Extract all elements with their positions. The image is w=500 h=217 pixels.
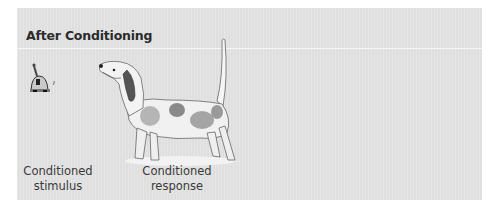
response-label-line-2: response	[122, 179, 232, 194]
bell-icon	[30, 63, 54, 92]
stimulus-label-line-1: Conditioned	[3, 164, 113, 179]
dog-illustration	[99, 39, 235, 166]
conditioned-response-label: Conditioned response	[122, 164, 232, 194]
response-label-line-1: Conditioned	[122, 164, 232, 179]
stimulus-label-line-2: stimulus	[3, 179, 113, 194]
conditioned-stimulus-label: Conditioned stimulus	[3, 164, 113, 194]
figure-panel: After Conditioning	[17, 8, 482, 200]
